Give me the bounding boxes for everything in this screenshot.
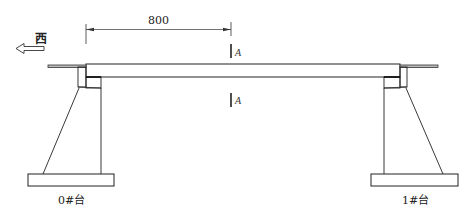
dimension-value: 800 — [148, 14, 169, 27]
girder — [86, 64, 400, 77]
direction-indicator: 西 — [16, 32, 47, 54]
abutment-1-label: 1#台 — [402, 193, 429, 207]
bridge-elevation-diagram: 西 800 A A 0#台 — [0, 0, 473, 220]
section-label-top: A — [234, 47, 242, 58]
abutment-0-label: 0#台 — [58, 193, 85, 207]
section-mark-a: A A — [231, 44, 242, 107]
section-label-bottom: A — [234, 95, 242, 106]
abutment-0: 0#台 — [28, 67, 114, 207]
dimension-arrow-left-icon — [86, 28, 94, 31]
dimension-arrow-right-icon — [223, 28, 231, 31]
abutment-1: 1#台 — [371, 67, 458, 207]
direction-label: 西 — [35, 32, 47, 46]
dimension-800: 800 — [86, 14, 231, 44]
